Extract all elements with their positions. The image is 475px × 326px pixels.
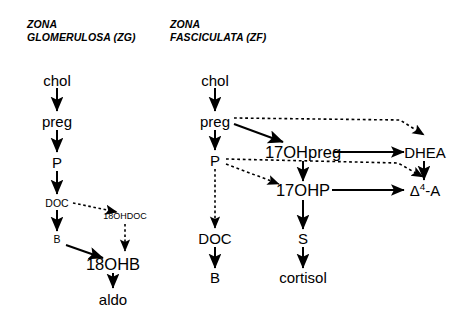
zf-node-doc: DOC [198, 230, 231, 247]
zf-node-17ohp: 17OHP [276, 181, 330, 200]
zona-fasciculata-heading: ZONA FASCICULATA (ZF) [170, 18, 266, 44]
zf-node-s: S [298, 230, 308, 247]
zf-node-delta4-androstenedione: Δ4-A [410, 182, 441, 199]
zg-node-b: B [53, 233, 60, 245]
zg-node-preg: preg [42, 113, 72, 130]
pathway-arrows-layer [0, 0, 475, 326]
zf-node-cortisol: cortisol [279, 269, 327, 286]
zf-node-preg: preg [200, 113, 230, 130]
zf-edge-preg-dhea-dotted [234, 118, 424, 135]
zf-node-17ohpreg: 17OHpreg [265, 143, 341, 162]
zf-edge-p-delta4a-dotted [226, 159, 423, 177]
zg-node-p: P [52, 154, 62, 171]
delta-tail: -A [425, 182, 440, 199]
zf-node-p: P [210, 152, 220, 169]
zg-node-18ohb: 18OHB [86, 255, 140, 274]
zf-edge-p-17ohp-dotted [226, 164, 279, 184]
zg-node-doc: DOC [45, 197, 68, 209]
zf-node-chol: chol [201, 72, 229, 89]
zg-node-18ohdoc: 18OHDOC [103, 211, 147, 221]
zf-node-dhea: DHEA [404, 144, 446, 161]
zf-edge-preg-17ohpreg [234, 124, 283, 142]
zg-node-chol: chol [43, 72, 71, 89]
zf-node-b: B [210, 269, 220, 286]
steroidogenesis-diagram: ZONA GLOMERULOSA (ZG) ZONA FASCICULATA (… [0, 0, 475, 326]
zg-node-aldo: aldo [99, 291, 127, 308]
delta-symbol: Δ [410, 182, 420, 199]
zona-glomerulosa-heading: ZONA GLOMERULOSA (ZG) [27, 18, 136, 44]
